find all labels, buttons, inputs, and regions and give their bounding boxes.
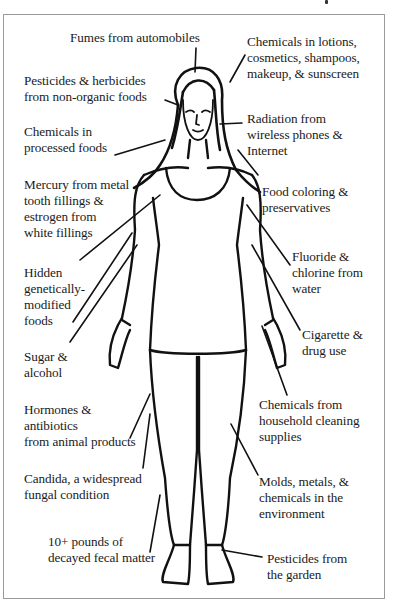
label-radiation: Radiation from wireless phones & Interne… [247, 111, 343, 159]
label-line: from non-organic foods [24, 89, 147, 105]
label-line: Hidden [24, 265, 85, 281]
label-line: Internet [247, 143, 343, 159]
label-line: Fumes from automobiles [70, 30, 200, 46]
face-icon [183, 100, 213, 140]
label-garden: Pesticides from the garden [267, 551, 347, 583]
label-lotions: Chemicals in lotions, cosmetics, shampoo… [247, 34, 360, 82]
label-line: drug use [302, 343, 363, 359]
label-line: Hormones & [24, 402, 136, 418]
label-line: household cleaning [259, 413, 359, 429]
label-cigarette: Cigarette & drug use [302, 327, 363, 359]
label-line: antibiotics [24, 418, 136, 434]
label-sugar: Sugar & alcohol [24, 349, 68, 381]
label-line: Molds, metals, & [259, 474, 349, 490]
label-line: Chemicals from [259, 397, 359, 413]
label-processed-foods: Chemicals in processed foods [24, 124, 107, 156]
label-line: Mercury from metal [24, 177, 129, 193]
label-line: preservatives [262, 200, 348, 216]
label-fumes: Fumes from automobiles [70, 30, 200, 46]
label-molds: Molds, metals, & chemicals in the enviro… [259, 474, 349, 522]
label-line: water [292, 281, 363, 297]
torso-icon [122, 140, 273, 354]
label-line: white fillings [24, 225, 129, 241]
label-line: the garden [267, 567, 347, 583]
label-line: supplies [259, 429, 359, 445]
legs-icon [150, 350, 246, 584]
label-line: processed foods [24, 140, 107, 156]
label-candida: Candida, a widespread fungal condition [24, 471, 142, 503]
label-line: Cigarette & [302, 327, 363, 343]
label-line: Fluoride & [292, 249, 363, 265]
label-line: environment [259, 506, 349, 522]
label-line: fungal condition [24, 487, 142, 503]
hair-icon [134, 68, 260, 192]
label-line: Food coloring & [262, 184, 348, 200]
label-line: genetically- [24, 281, 85, 297]
label-fluoride: Fluoride & chlorine from water [292, 249, 363, 297]
label-line: from animal products [24, 434, 136, 450]
label-line: modified [24, 297, 85, 313]
label-household: Chemicals from household cleaning suppli… [259, 397, 359, 445]
label-line: makeup, & sunscreen [247, 66, 360, 82]
label-line: cosmetics, shampoos, [247, 50, 360, 66]
label-line: Chemicals in lotions, [247, 34, 360, 50]
label-line: 10+ pounds of [48, 534, 155, 550]
label-line: foods [24, 313, 85, 329]
label-hormones: Hormones & antibiotics from animal produ… [24, 402, 136, 450]
label-line: tooth fillings & [24, 193, 129, 209]
label-food-coloring: Food coloring & preservatives [262, 184, 348, 216]
label-line: Candida, a widespread [24, 471, 142, 487]
label-line: estrogen from [24, 209, 129, 225]
label-line: chemicals in the [259, 490, 349, 506]
label-line: chlorine from [292, 265, 363, 281]
label-mercury: Mercury from metal tooth fillings & estr… [24, 177, 129, 241]
label-line: Radiation from [247, 111, 343, 127]
label-line: alcohol [24, 365, 68, 381]
label-fecal: 10+ pounds of decayed fecal matter [48, 534, 155, 566]
label-line: decayed fecal matter [48, 550, 155, 566]
label-line: Chemicals in [24, 124, 107, 140]
label-line: Pesticides & herbicides [24, 73, 147, 89]
label-gmo: Hidden genetically- modified foods [24, 265, 85, 329]
label-line: Sugar & [24, 349, 68, 365]
label-pesticides-herbicides: Pesticides & herbicides from non-organic… [24, 73, 147, 105]
label-line: Pesticides from [267, 551, 347, 567]
label-line: wireless phones & [247, 127, 343, 143]
